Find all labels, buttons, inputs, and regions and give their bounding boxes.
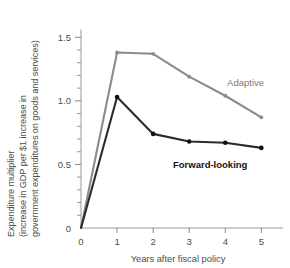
data-point <box>151 52 155 56</box>
x-axis-title: Years after fiscal policy <box>131 254 226 264</box>
plot-area: 00.51.01.5012345 AdaptiveForward-looking… <box>0 0 290 268</box>
data-point <box>115 51 119 55</box>
x-tick-label: 1 <box>114 236 119 247</box>
expenditure-multiplier-chart: Expenditure multiplier (increase in GDP … <box>0 0 290 268</box>
data-point <box>223 141 228 146</box>
data-point <box>259 146 264 151</box>
x-tick-label: 0 <box>78 236 83 247</box>
x-tick-label: 2 <box>150 236 155 247</box>
series-label-adaptive: Adaptive <box>227 77 264 88</box>
y-tick-label: 0 <box>66 223 71 234</box>
x-tick-label: 4 <box>223 236 228 247</box>
x-tick-label: 3 <box>187 236 192 247</box>
x-tick-label: 5 <box>259 236 264 247</box>
series-label-forward-looking: Forward-looking <box>173 159 248 170</box>
data-point <box>187 75 191 79</box>
y-tick-label: 0.5 <box>58 159 71 170</box>
annotation-labels-group: AdaptiveForward-looking <box>173 77 264 171</box>
data-point <box>259 115 263 119</box>
y-tick-label: 1.5 <box>58 32 71 43</box>
data-point <box>223 94 227 98</box>
data-point <box>115 95 120 100</box>
data-point <box>187 139 192 144</box>
data-point <box>151 132 156 137</box>
y-tick-label: 1.0 <box>58 95 71 106</box>
